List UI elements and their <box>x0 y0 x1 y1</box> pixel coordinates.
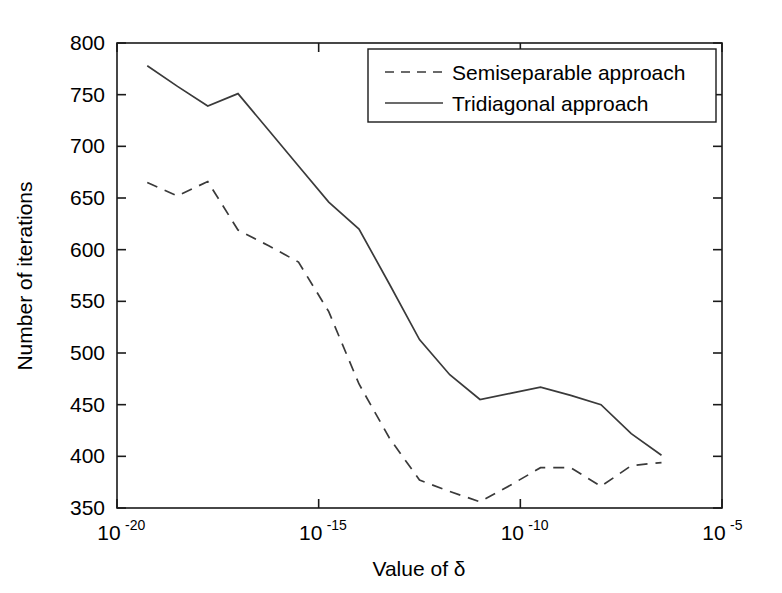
svg-text:10: 10 <box>702 521 725 544</box>
y-tick-label: 450 <box>70 393 105 416</box>
legend-label-semiseparable: Semiseparable approach <box>452 61 685 84</box>
svg-text:-10: -10 <box>528 517 548 533</box>
y-axis-tick-labels: 350400450500550600650700750800 <box>70 31 105 519</box>
series-line-tridiagonal-approach <box>147 66 661 456</box>
svg-text:10: 10 <box>501 521 524 544</box>
y-tick-label: 500 <box>70 341 105 364</box>
figure-canvas: 350400450500550600650700750800 10-2010-1… <box>0 0 782 593</box>
y-tick-label: 700 <box>70 134 105 157</box>
y-tick-label: 650 <box>70 186 105 209</box>
x-axis-title: Value of δ <box>372 557 465 580</box>
legend-label-tridiagonal: Tridiagonal approach <box>452 92 649 115</box>
y-tick-label: 400 <box>70 444 105 467</box>
y-tick-label: 550 <box>70 289 105 312</box>
line-chart: 350400450500550600650700750800 10-2010-1… <box>0 0 782 593</box>
x-tick-label: 10-15 <box>299 517 347 544</box>
svg-text:-15: -15 <box>327 517 347 533</box>
series-line-semiseparable-approach <box>147 181 661 501</box>
y-tick-label: 800 <box>70 31 105 54</box>
legend: Semiseparable approach Tridiagonal appro… <box>368 49 716 122</box>
svg-text:-5: -5 <box>730 517 743 533</box>
svg-text:10: 10 <box>97 521 120 544</box>
svg-text:10: 10 <box>299 521 322 544</box>
svg-text:-20: -20 <box>125 517 145 533</box>
x-tick-label: 10-20 <box>97 517 145 544</box>
x-axis-tick-labels: 10-2010-1510-1010-5 <box>97 517 742 544</box>
y-tick-label: 750 <box>70 83 105 106</box>
y-tick-label: 600 <box>70 238 105 261</box>
x-tick-label: 10-10 <box>501 517 549 544</box>
x-tick-label: 10-5 <box>702 517 742 544</box>
y-tick-label: 350 <box>70 496 105 519</box>
y-axis-title: Number of iterations <box>13 181 36 370</box>
